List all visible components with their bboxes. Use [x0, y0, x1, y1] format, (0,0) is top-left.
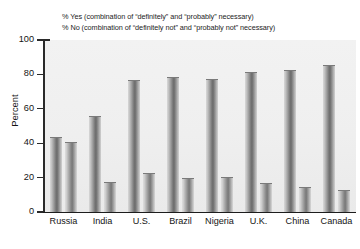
x-label-canada: Canada [317, 216, 356, 226]
x-label-nigeria: Nigeria [200, 216, 239, 226]
bar-uk-no [260, 183, 272, 212]
y-axis-label: Percent [9, 81, 20, 141]
y-tick-label-0: 0 [0, 206, 34, 216]
bar-china-yes [284, 70, 296, 212]
x-label-china: China [278, 216, 317, 226]
x-label-us: U.S. [122, 216, 161, 226]
legend-entry-no: % No (combination of “definitely not” an… [62, 23, 358, 34]
y-tick-0 [37, 211, 43, 212]
bar-brazil-yes [167, 77, 179, 212]
bar-us-no [143, 173, 155, 212]
x-label-russia: Russia [44, 216, 83, 226]
y-tick-label-20: 20 [0, 172, 34, 182]
x-label-uk: U.K. [239, 216, 278, 226]
x-label-india: India [83, 216, 122, 226]
legend-entry-yes: % Yes (combination of “definitely” and “… [62, 12, 358, 23]
bar-india-yes [89, 116, 101, 212]
bar-uk-yes [245, 72, 257, 212]
y-tick-20 [37, 177, 43, 178]
bars-layer [44, 40, 356, 212]
bar-nigeria-no [221, 177, 233, 212]
bar-russia-no [65, 142, 77, 212]
bar-chart: % Yes (combination of “definitely” and “… [0, 0, 360, 249]
y-tick-40 [37, 143, 43, 144]
y-tick-label-100: 100 [0, 34, 34, 44]
y-tick-label-80: 80 [0, 68, 34, 78]
y-tick-80 [37, 74, 43, 75]
bar-nigeria-yes [206, 79, 218, 212]
x-label-brazil: Brazil [161, 216, 200, 226]
bar-us-yes [128, 80, 140, 212]
bar-india-no [104, 182, 116, 212]
y-tick-100 [37, 39, 43, 40]
bar-canada-yes [323, 65, 335, 212]
bar-china-no [299, 187, 311, 212]
bar-canada-no [338, 190, 350, 212]
bar-russia-yes [50, 137, 62, 212]
y-tick-60 [37, 108, 43, 109]
chart-legend: % Yes (combination of “definitely” and “… [62, 12, 358, 33]
bar-brazil-no [182, 178, 194, 212]
